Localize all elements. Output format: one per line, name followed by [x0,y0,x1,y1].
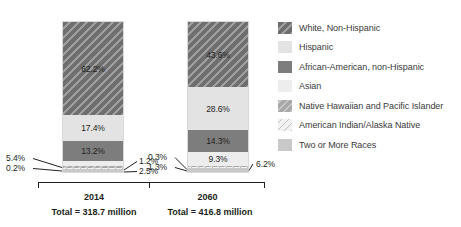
bar-2060: 43.6% 28.6% 14.3% 9.3% [188,22,248,172]
legend-label-african-american: African-American, non-Hispanic [299,62,424,72]
legend-swatch-native-hawaiian-pacific-islander-icon [278,100,292,112]
segment-2014-white-non-hispanic: 62.2% [63,22,123,115]
legend-swatch-american-indian-alaska-native-icon [278,119,292,131]
axis-baseline-2014 [38,182,150,183]
segment-label-2060-hispanic: 28.6% [188,104,248,113]
legend-swatch-hispanic-icon [278,41,292,53]
legend-label-two-or-more-races: Two or More Races [299,140,376,150]
legend-item-asian: Asian [278,77,458,97]
segment-label-2060-asian: 9.3% [188,154,248,163]
segment-label-2060-african-american: 14.3% [188,136,248,145]
callout-2060-american-indian-alaska-native: 1.3% [148,162,167,172]
axis-tick-2014-left [38,182,39,188]
segment-2014-african-american: 13.2% [63,141,123,161]
legend-item-american-indian-alaska-native: American Indian/Alaska Native [278,116,458,136]
legend-swatch-asian-icon [278,80,292,92]
legend-swatch-african-american-icon [278,61,292,73]
segment-2014-hispanic: 17.4% [63,115,123,141]
legend-item-native-hawaiian-pacific-islander: Native Hawaiian and Pacific Islander [278,96,458,116]
bar-2014: 62.2% 17.4% 13.2% [63,22,123,172]
legend-swatch-white-non-hispanic-icon [278,22,292,34]
callout-2014-asian: 5.4% [6,153,25,163]
callout-2014-native-hawaiian: 0.2% [6,163,25,173]
segment-2060-white-non-hispanic: 43.6% [188,22,248,87]
legend-label-white-non-hispanic: White, Non-Hispanic [299,23,380,33]
axis-baseline-2060 [150,182,265,183]
total-label-2060: Total = 416.8 million [140,207,280,217]
legend-label-asian: Asian [299,81,321,91]
category-label-2014: 2014 [38,192,150,202]
segment-2060-two-or-more-races [188,168,248,172]
segment-2060-asian: 9.3% [188,152,248,166]
segment-2014-two-or-more-races [63,169,123,172]
callout-2060-two-or-more-races: 6.2% [256,159,275,169]
legend-item-white-non-hispanic: White, Non-Hispanic [278,18,458,38]
axis-tick-2060-right [264,182,265,188]
segment-label-2014-african-american: 13.2% [63,147,123,156]
legend-label-hispanic: Hispanic [299,42,333,52]
legend: White, Non-Hispanic Hispanic African-Ame… [278,18,458,155]
callout-2060-native-hawaiian: 0.3% [148,152,167,162]
legend-item-two-or-more-races: Two or More Races [278,135,458,155]
category-label-2060: 2060 [150,192,265,202]
segment-label-2014-hispanic: 17.4% [63,124,123,133]
legend-label-american-indian-alaska-native: American Indian/Alaska Native [299,120,420,130]
segment-label-2060-white-non-hispanic: 43.6% [188,50,248,59]
legend-label-native-hawaiian-pacific-islander: Native Hawaiian and Pacific Islander [299,101,443,111]
segment-2060-african-american: 14.3% [188,130,248,151]
legend-item-hispanic: Hispanic [278,38,458,58]
segment-2060-hispanic: 28.6% [188,87,248,130]
legend-item-african-american: African-American, non-Hispanic [278,57,458,77]
population-projection-stacked-bar-chart: 62.2% 17.4% 13.2% 43.6% 28.6% 14.3% 9.3% [0,0,461,227]
segment-label-2014-white-non-hispanic: 62.2% [63,64,123,73]
legend-swatch-two-or-more-races-icon [278,139,292,151]
